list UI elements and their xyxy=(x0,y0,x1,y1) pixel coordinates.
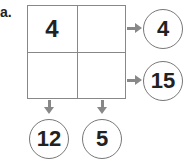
row-1-result: 15 xyxy=(143,61,183,101)
grid-cell-r1-c0[interactable] xyxy=(28,53,76,99)
problem-label: a. xyxy=(0,4,12,20)
row-0-arrow-icon xyxy=(127,27,136,30)
col-1-result: 5 xyxy=(82,119,122,159)
col-0-result: 12 xyxy=(29,119,69,159)
col-1-arrow-icon xyxy=(101,100,104,108)
row-1-arrow-icon xyxy=(127,79,136,82)
row-0-result: 4 xyxy=(143,9,183,49)
grid-cell-r0-c0[interactable]: 4 xyxy=(28,6,76,52)
multiplication-grid: 4 xyxy=(27,5,126,99)
grid-cell-r0-c1[interactable] xyxy=(78,6,126,52)
col-0-arrow-icon xyxy=(48,100,51,108)
grid-cell-r1-c1[interactable] xyxy=(78,53,126,99)
